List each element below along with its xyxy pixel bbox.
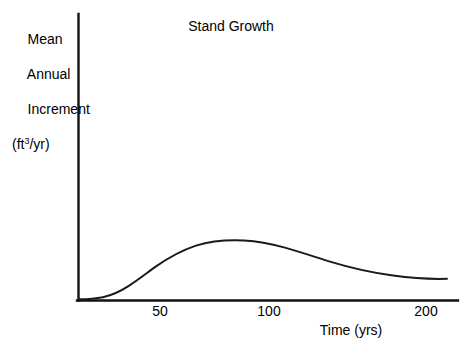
y-axis-title-line-2: Annual bbox=[27, 66, 71, 82]
y-axis-units-prefix: (ft bbox=[12, 136, 24, 152]
y-axis-title-line-3: Increment bbox=[28, 101, 90, 117]
x-tick-label-200: 200 bbox=[414, 303, 437, 321]
y-axis-title-line-1: Mean bbox=[28, 31, 63, 47]
y-axis-units: (ft3/yr) bbox=[12, 136, 90, 154]
chart-title: Stand Growth bbox=[188, 18, 274, 36]
mean-annual-increment-curve bbox=[79, 240, 447, 299]
chart-figure: Stand Growth Mean Annual Increment (ft3/… bbox=[0, 0, 465, 347]
y-axis-title: Mean Annual Increment (ft3/yr) bbox=[12, 13, 90, 188]
x-tick-label-50: 50 bbox=[152, 303, 168, 321]
x-axis-title: Time (yrs) bbox=[320, 322, 382, 340]
x-tick-label-100: 100 bbox=[257, 303, 280, 321]
y-axis-units-suffix: /yr) bbox=[29, 136, 49, 152]
y-axis-units-exponent: 3 bbox=[24, 136, 29, 146]
